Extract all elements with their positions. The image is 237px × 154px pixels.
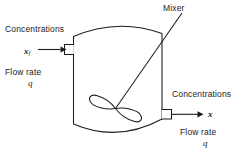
outlet-concentration-symbol: x bbox=[208, 109, 213, 119]
outlet-nozzle bbox=[162, 110, 172, 120]
inlet-flow-rate-label: Flow rate bbox=[5, 67, 41, 77]
outlet-flow-rate-label: Flow rate bbox=[180, 127, 216, 137]
tank-vessel-outline bbox=[74, 26, 163, 132]
outlet-concentrations-label: Concentrations bbox=[172, 89, 231, 99]
inlet-flow-arrow bbox=[38, 46, 67, 52]
mixer-label: Mixer bbox=[163, 3, 185, 13]
inlet-flow-rate-symbol: q bbox=[28, 78, 33, 88]
cstr-diagram: Concentrations xf Flow rate q Mixer Conc… bbox=[0, 0, 237, 154]
inlet-concentration-symbol: xf bbox=[24, 46, 31, 58]
inlet-concentrations-label: Concentrations bbox=[5, 24, 64, 34]
outlet-flow-arrow bbox=[171, 111, 204, 117]
outlet-flow-rate-symbol: q bbox=[203, 138, 208, 148]
inlet-symbol-subscript: f bbox=[29, 49, 31, 56]
impeller-blades bbox=[90, 95, 142, 122]
